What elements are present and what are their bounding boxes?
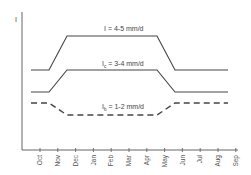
x-tick-label: May <box>161 154 169 167</box>
x-tick-label: Oct <box>36 155 43 165</box>
x-tick-label: Jun <box>179 155 186 166</box>
x-tick-label: Aug <box>214 155 222 167</box>
x-tick-label: Sep <box>232 155 240 167</box>
x-tick-label: Dec <box>72 154 79 166</box>
x-tick-label: Apr <box>143 154 151 165</box>
x-tick-label: Jul <box>196 154 203 163</box>
x-axis-ticks: OctNovDecJanFebMarAprMayJunJulAugSep <box>36 148 240 167</box>
annotation-Ic: Ic = 3-4 mm/d <box>102 60 144 69</box>
y-axis-label: I <box>15 16 17 23</box>
seasonal-infiltration-chart: I OctNovDecJanFebMarAprMayJunJulAugSep I… <box>0 0 251 175</box>
x-tick-label: Nov <box>54 154 61 166</box>
x-tick-label: Jan <box>90 155 97 166</box>
x-tick-label: Feb <box>107 155 114 167</box>
x-tick-label: Mar <box>125 154 132 166</box>
annotation-Ib: Ib = 1-2 mm/d <box>102 103 144 112</box>
series-Ic-line <box>31 70 228 92</box>
annotation-I: I = 4-5 mm/d <box>104 25 144 32</box>
